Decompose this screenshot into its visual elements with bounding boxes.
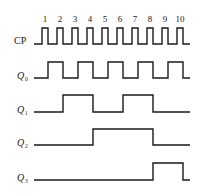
signal-q1: Q1: [17, 95, 190, 116]
waveform-line: [34, 129, 190, 145]
signal-label-subscript: 3: [25, 178, 28, 184]
waveform-line: [34, 163, 190, 180]
signal-label: Q: [17, 137, 25, 148]
signal-cp: CP: [14, 28, 190, 46]
clock-pulse-number: 6: [118, 14, 123, 24]
clock-pulse-number: 2: [58, 14, 63, 24]
clock-pulse-number: 3: [73, 14, 78, 24]
signal-waveforms: CPQ0Q1Q2Q3: [14, 28, 190, 184]
timing-diagram: 12345678910 CPQ0Q1Q2Q3: [0, 0, 208, 196]
signal-label-subscript: 2: [25, 143, 28, 149]
waveform-line: [34, 28, 190, 44]
signal-label: CP: [14, 35, 27, 46]
clock-pulse-number: 5: [103, 14, 108, 24]
signal-q2: Q2: [17, 129, 190, 149]
clock-pulse-number: 9: [163, 14, 168, 24]
clock-pulse-number: 8: [148, 14, 153, 24]
signal-label-subscript: 1: [25, 110, 28, 116]
signal-label-subscript: 0: [25, 76, 28, 82]
signal-q3: Q3: [17, 163, 190, 184]
clock-pulse-number: 10: [176, 14, 186, 24]
signal-label: Q: [17, 104, 25, 115]
waveform-line: [34, 95, 190, 112]
clock-pulse-numbers: 12345678910: [43, 14, 185, 24]
signal-label: Q: [17, 70, 25, 81]
signal-q0: Q0: [17, 62, 190, 82]
clock-pulse-number: 7: [133, 14, 138, 24]
clock-pulse-number: 1: [43, 14, 48, 24]
signal-label: Q: [17, 172, 25, 183]
clock-pulse-number: 4: [88, 14, 93, 24]
waveform-line: [34, 62, 190, 78]
